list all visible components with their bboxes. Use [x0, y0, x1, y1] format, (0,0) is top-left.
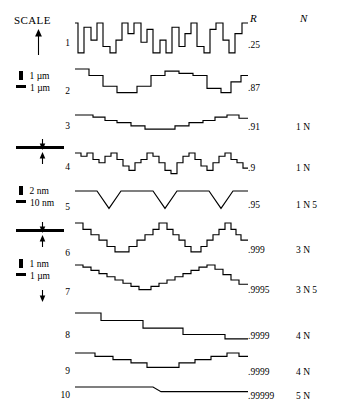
scale-horizontal-1: 1 µm [16, 82, 50, 94]
horizontal-bar-icon [16, 85, 26, 88]
horizontal-bar-icon [16, 273, 26, 276]
scale-horizontal-3: 1 µm [16, 270, 50, 282]
scale-horizontal-unit: 1 µm [30, 270, 50, 282]
trace-row-number: 1 [56, 38, 70, 48]
scale-title: SCALE [14, 14, 51, 26]
r-value: .999 [248, 245, 265, 255]
scale-vertical-1: 1 µm [16, 70, 50, 82]
trace-line-1 [75, 22, 248, 56]
r-value: .25 [248, 40, 260, 50]
n-value: 1 N [296, 122, 310, 132]
scale-vertical-unit: 2 nm [30, 185, 49, 197]
scale-vertical-3: 1 nm [16, 258, 50, 270]
scale-horizontal-unit: 10 nm [30, 197, 54, 209]
r-value: .99999 [248, 391, 274, 401]
scale-legend-group-2: 2 nm 10 nm [16, 185, 54, 209]
trace-line-6 [75, 222, 248, 256]
trace-row-number: 3 [56, 121, 70, 131]
scale-up-arrow-icon [33, 29, 44, 59]
vertical-bar-icon [19, 259, 23, 268]
vertical-bar-icon [19, 71, 23, 80]
r-value: .87 [248, 83, 260, 93]
scale-vertical-unit: 1 nm [30, 258, 49, 270]
trace-line-8 [75, 312, 248, 342]
n-value: 1 N [296, 163, 310, 173]
trace-row-number: 6 [56, 248, 70, 258]
trace-row-number: 2 [56, 86, 70, 96]
column-header-r: R [250, 12, 257, 24]
n-value: 3 N [296, 245, 310, 255]
scale-legend-group-1: 1 µm 1 µm [16, 70, 50, 94]
trace-row-number: 5 [56, 202, 70, 212]
column-header-n: N [300, 12, 307, 24]
trace-row-number: 9 [56, 366, 70, 376]
up-arrow-icon [38, 150, 47, 168]
figure-root: SCALE 1 µm 1 µm 2 nm 10 nm [0, 0, 341, 416]
scale-horizontal-unit: 1 µm [30, 82, 50, 94]
scale-separator-1 [16, 136, 64, 164]
horizontal-bar-icon [16, 200, 26, 203]
trace-line-9 [75, 352, 248, 376]
trace-row-number: 4 [56, 162, 70, 172]
r-value: .9995 [248, 285, 269, 295]
trace-row-number: 7 [56, 287, 70, 297]
trace-line-10 [75, 386, 248, 402]
trace-line-3 [75, 114, 248, 140]
n-value: 5 N [296, 391, 310, 401]
r-value: .91 [248, 122, 260, 132]
trace-line-7 [75, 264, 248, 296]
n-value: 4 N [296, 367, 310, 377]
scale-thick-bar [16, 146, 64, 149]
scale-thick-bar [16, 229, 64, 232]
trace-line-5 [75, 190, 248, 214]
trace-row-number: 10 [56, 390, 70, 400]
scale-vertical-unit: 1 µm [30, 70, 50, 82]
scale-vertical-2: 2 nm [16, 185, 54, 197]
r-value: .9999 [248, 367, 269, 377]
vertical-bar-icon [19, 186, 23, 195]
trace-row-number: 8 [56, 330, 70, 340]
trace-line-2 [75, 68, 248, 98]
n-value: 4 N [296, 331, 310, 341]
trace-line-4 [75, 152, 248, 180]
down-arrow-icon [38, 288, 47, 306]
n-value: 1 N 5 [296, 200, 317, 210]
scale-separator-2 [16, 219, 64, 247]
r-value: .95 [248, 200, 260, 210]
up-arrow-icon [38, 233, 47, 251]
r-value: .9999 [248, 331, 269, 341]
scale-horizontal-2: 10 nm [16, 197, 54, 209]
n-value: 3 N 5 [296, 285, 317, 295]
scale-legend-group-3: 1 nm 1 µm [16, 258, 50, 282]
r-value: .9 [248, 163, 255, 173]
